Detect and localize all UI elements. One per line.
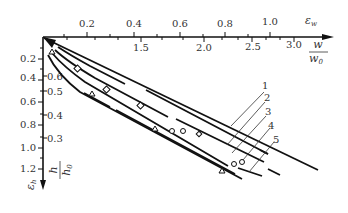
series-3-line [55,50,264,162]
svg-text:1.0: 1.0 [262,16,278,27]
svg-text:1.2: 1.2 [20,163,36,174]
series-5-offset [84,93,235,174]
svg-text:0.2: 0.2 [20,53,36,64]
chart-plot: 0.2 0.4 0.6 0.8 1.0 1.5 2.0 2.5 3.0 0.2 … [0,0,348,213]
y-tick-labels-inner: 0.6 0.5 0.4 0.3 [47,71,63,144]
svg-text:0.8: 0.8 [20,119,36,130]
svg-text:0.8: 0.8 [217,18,233,29]
svg-text:0.4: 0.4 [47,110,63,121]
svg-text:εh: εh [24,180,38,190]
svg-text:0.5: 0.5 [47,86,63,97]
legend-labels: 1 2 3 4 5 [262,80,279,145]
y-axis-title-h-ratio: h h0 [47,161,74,179]
svg-text:w: w [313,38,323,51]
svg-text:1.0: 1.0 [20,142,36,153]
svg-text:w0: w0 [309,52,323,66]
svg-text:h0: h0 [60,164,74,176]
y-tick-labels-outer: 0.2 0.4 0.6 0.8 1.0 1.2 [20,53,36,174]
diamond-marker [103,86,110,93]
svg-text:5: 5 [273,134,279,145]
series-4-tail2 [268,169,280,175]
svg-text:1.5: 1.5 [133,42,149,53]
x-axis-arrow-icon [322,34,334,40]
x-tick-labels-lower: 1.5 2.0 2.5 3.0 [133,39,302,53]
circle-marker [232,162,237,167]
svg-text:2.5: 2.5 [245,41,261,52]
svg-text:0.6: 0.6 [172,18,188,29]
x-tick-labels-upper: 0.2 0.4 0.6 0.8 1.0 [79,16,278,29]
svg-text:0.4: 0.4 [20,72,36,83]
triangle-marker [89,91,95,96]
legend-leaders [227,92,274,172]
svg-text:0.2: 0.2 [79,18,95,29]
circle-marker [170,129,175,134]
triangle-marker [152,126,158,131]
svg-text:3: 3 [265,106,271,117]
svg-text:2: 2 [264,92,270,103]
x-axis-title-w-ratio: w w0 [309,38,328,66]
svg-text:4: 4 [268,120,274,131]
series-4-tail [238,168,262,176]
svg-text:h: h [47,166,60,173]
svg-text:0.3: 0.3 [47,133,63,144]
circle-marker [181,129,186,134]
svg-text:3.0: 3.0 [286,39,302,50]
svg-text:0.6: 0.6 [20,96,36,107]
chart: 0.2 0.4 0.6 0.8 1.0 1.5 2.0 2.5 3.0 0.2 … [0,0,348,213]
y-axis-arrow-icon [40,180,46,190]
series-lines [44,38,318,179]
markers [49,49,245,173]
svg-text:0.4: 0.4 [126,18,142,29]
svg-text:1: 1 [262,80,268,91]
series-2-line [58,47,268,154]
triangle-marker [49,49,55,54]
x-axis-title-epsilon-w: εw [305,14,317,28]
y-axis-title-epsilon-h: εh [24,180,38,190]
svg-text:2.0: 2.0 [196,42,212,53]
circle-marker [240,160,245,165]
series-1-line [44,38,318,170]
svg-text:εw: εw [305,14,317,28]
